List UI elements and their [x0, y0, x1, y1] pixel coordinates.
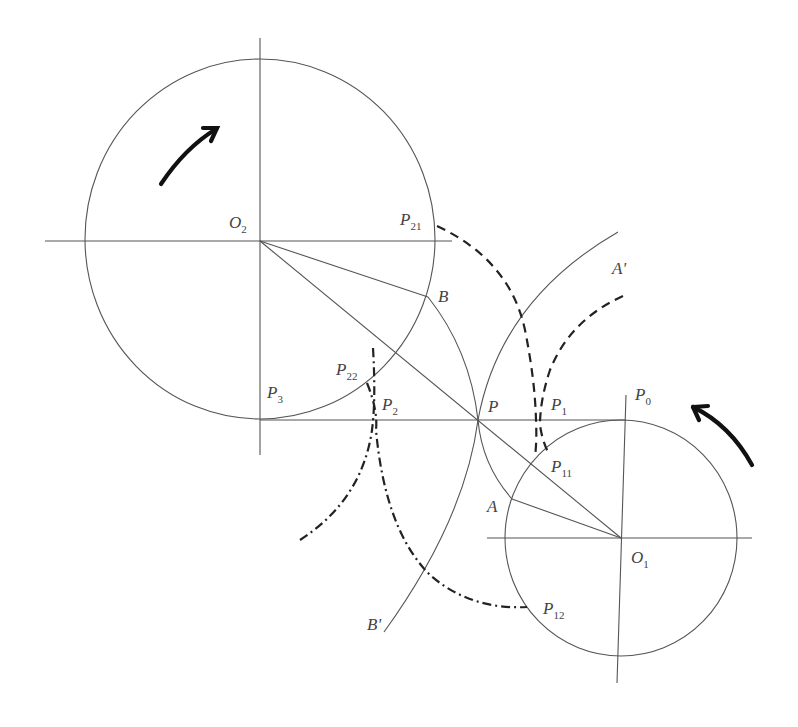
label-P2: P2: [381, 395, 398, 417]
line-of-centers: [260, 241, 621, 538]
label-P11: P11: [550, 457, 572, 479]
label-P3: P3: [266, 383, 283, 405]
label-P12: P12: [542, 599, 564, 621]
label-P0: P0: [634, 385, 651, 407]
dashdot-profile-P22-P12: [367, 383, 527, 607]
label-O2: O2: [229, 213, 247, 235]
label-O1: O1: [631, 548, 649, 570]
label-A-prime: A': [611, 259, 626, 278]
arc-B-P-A: [428, 297, 512, 499]
label-P: P: [487, 397, 498, 416]
rotation-arrow-clockwise-icon: [161, 128, 217, 184]
curve-Aprime-P-Bprime: [384, 232, 618, 632]
label-P21: P21: [399, 210, 421, 232]
O1-vertical-axis: [617, 395, 626, 683]
line-O2-B: [260, 241, 428, 297]
dashed-profile-P21-P11: [437, 226, 536, 457]
line-O1-A: [512, 499, 621, 538]
gear-meshing-diagram: O2 P21 B A' P3 P22 P2 P P1 P0 P11 A O1 P…: [0, 0, 798, 727]
rotation-arrow-counterclockwise-icon: [693, 406, 752, 465]
label-B: B: [438, 287, 449, 306]
label-A: A: [486, 497, 498, 516]
label-P1: P1: [550, 395, 567, 417]
label-P22: P22: [335, 360, 357, 382]
dashed-profile-P1: [540, 296, 623, 452]
label-B-prime: B': [367, 615, 381, 634]
